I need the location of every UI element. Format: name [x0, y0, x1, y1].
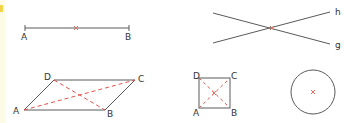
center-cross-icon	[212, 91, 216, 95]
geometry-diagram: A B h g A B C D A B C D	[0, 0, 353, 123]
label-b: B	[107, 109, 113, 119]
parallelogram-abcd: A B C D	[13, 72, 144, 119]
label-c: C	[138, 74, 144, 84]
label-d: D	[44, 72, 51, 82]
label-a: A	[13, 106, 20, 116]
diagonal-bd	[54, 80, 105, 110]
label-a: A	[21, 32, 28, 42]
label-b: B	[231, 108, 237, 118]
intersecting-lines: h g	[213, 7, 341, 50]
square-abcd: A B C D	[193, 71, 237, 118]
label-b: B	[125, 32, 131, 42]
center-cross-icon	[311, 90, 315, 94]
circle-figure	[291, 70, 335, 114]
label-g: g	[335, 40, 341, 50]
label-c: C	[231, 71, 237, 81]
label-d: D	[193, 71, 200, 81]
label-a: A	[193, 108, 200, 118]
label-h: h	[335, 7, 341, 17]
segment-ab: A B	[21, 25, 131, 42]
